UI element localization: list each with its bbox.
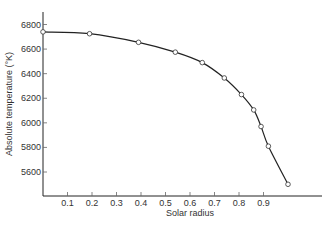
x-tick-label: 0.8	[233, 198, 246, 208]
data-point	[222, 76, 227, 81]
y-tick-label: 6400	[21, 69, 41, 79]
y-axis-title: Absolute temperature (°K)	[4, 52, 14, 156]
y-tick-label: 6800	[21, 20, 41, 30]
x-axis-ticks: 0.10.20.30.40.50.60.70.80.9	[61, 192, 270, 208]
x-tick-label: 0.1	[61, 198, 74, 208]
x-tick-label: 0.2	[86, 198, 99, 208]
y-tick-label: 5600	[21, 167, 41, 177]
data-point	[239, 92, 244, 97]
data-points	[41, 30, 291, 187]
data-point	[266, 144, 271, 149]
x-tick-label: 0.3	[110, 198, 123, 208]
y-tick-label: 6000	[21, 118, 41, 128]
y-tick-label: 5800	[21, 142, 41, 152]
x-tick-label: 0.5	[159, 198, 172, 208]
data-point	[173, 50, 178, 55]
data-point	[41, 30, 46, 35]
y-tick-label: 6600	[21, 44, 41, 54]
data-point	[136, 40, 141, 45]
data-point	[200, 60, 205, 65]
data-point	[259, 124, 264, 129]
x-axis-title: Solar radius	[166, 208, 215, 218]
data-point	[87, 31, 92, 36]
temperature-curve	[43, 32, 288, 184]
x-tick-label: 0.9	[257, 198, 270, 208]
x-tick-label: 0.7	[208, 198, 221, 208]
y-tick-label: 6200	[21, 93, 41, 103]
data-point	[251, 108, 256, 113]
x-tick-label: 0.6	[184, 198, 197, 208]
x-tick-label: 0.4	[135, 198, 148, 208]
chart: 5600580060006200640066006800 0.10.20.30.…	[0, 0, 330, 226]
data-point	[286, 182, 291, 187]
